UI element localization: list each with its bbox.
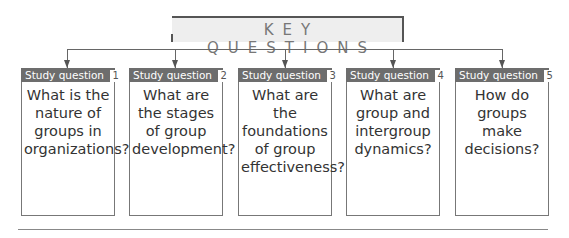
key-questions-title-box: KEY QUESTIONS [172, 16, 404, 42]
arrow-down-icon [393, 50, 394, 68]
arrow-down-icon [175, 50, 176, 68]
arrow-down-icon [502, 50, 503, 68]
study-question-text: What are the stages of group development… [130, 82, 222, 158]
study-question-label: Study question [25, 69, 104, 81]
study-question-header: Study question 1 [21, 68, 115, 82]
study-question-number: 3 [327, 70, 337, 82]
study-question-header: Study question 4 [346, 68, 440, 82]
study-question-header: Study question 2 [129, 68, 223, 82]
study-question-number: 4 [435, 70, 445, 82]
arrow-down-icon [285, 50, 286, 68]
study-question-label: Study question [459, 69, 538, 81]
key-questions-title: KEY QUESTIONS [172, 21, 402, 57]
study-question-card-3: Study question 3 What are the foundation… [238, 68, 332, 216]
study-question-text: What are group and intergroup dynamics? [347, 82, 439, 158]
title-connector [171, 34, 173, 42]
study-question-header: Study question 3 [238, 68, 332, 82]
study-question-text: How do groups make decisions? [456, 82, 548, 158]
study-question-card-1: Study question 1 What is the nature of g… [21, 68, 115, 216]
study-question-text: What is the nature of groups in organiza… [22, 82, 114, 158]
bottom-divider [18, 229, 548, 230]
study-question-card-5: Study question 5 How do groups make deci… [455, 68, 549, 216]
study-question-label: Study question [133, 69, 212, 81]
arrow-down-icon [67, 50, 68, 68]
study-question-card-4: Study question 4 What are group and inte… [346, 68, 440, 216]
study-question-number: 2 [218, 70, 228, 82]
study-question-label: Study question [350, 69, 429, 81]
study-question-header: Study question 5 [455, 68, 549, 82]
study-question-number: 1 [110, 70, 120, 82]
study-question-text: What are the foundations of group effect… [239, 82, 331, 176]
study-question-number: 5 [544, 70, 554, 82]
study-question-label: Study question [242, 69, 321, 81]
study-question-card-2: Study question 2 What are the stages of … [129, 68, 223, 216]
